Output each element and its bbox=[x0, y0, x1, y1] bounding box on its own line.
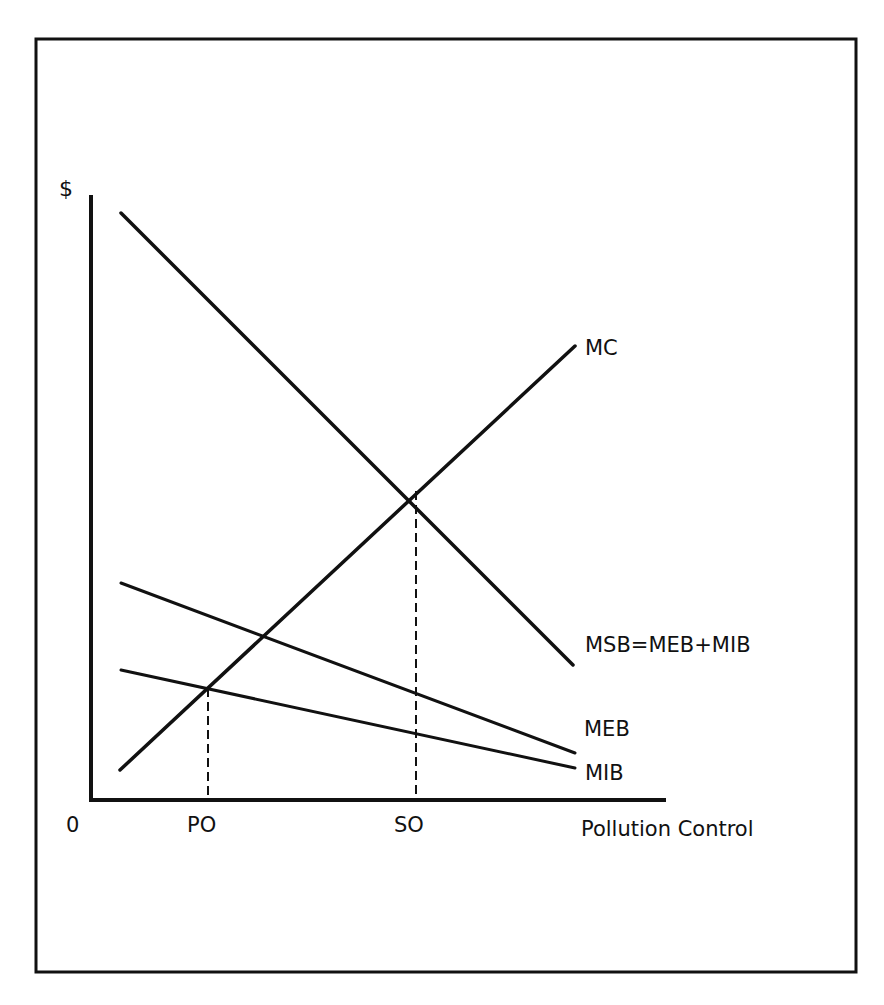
msb-label: MSB=MEB+MIB bbox=[585, 633, 751, 657]
meb-curve bbox=[121, 583, 575, 753]
origin-label: 0 bbox=[66, 813, 79, 837]
meb-label: MEB bbox=[584, 717, 630, 741]
mc-label: MC bbox=[585, 336, 618, 360]
pollution-control-diagram: $ 0 PO SO Pollution Control MC MSB=MEB+M… bbox=[0, 0, 884, 1005]
x-axis-label: Pollution Control bbox=[581, 817, 754, 841]
tick-label-so: SO bbox=[394, 813, 424, 837]
y-axis-label: $ bbox=[59, 176, 73, 201]
tick-label-po: PO bbox=[187, 813, 216, 837]
msb-curve bbox=[121, 213, 573, 665]
mib-curve bbox=[121, 670, 575, 768]
mib-label: MIB bbox=[585, 761, 624, 785]
mc-curve bbox=[120, 346, 575, 770]
